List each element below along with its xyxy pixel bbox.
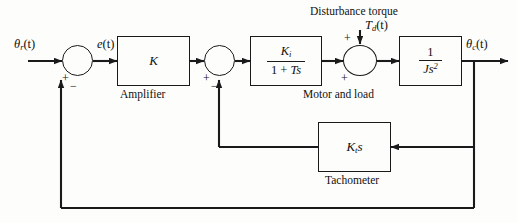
reference-input-label: θr(t) (14, 38, 35, 52)
load-transfer-function: 1 Js2 (419, 45, 442, 77)
load-numerator: 1 (419, 45, 442, 61)
motor-block: Ki 1 + Ts (250, 36, 322, 86)
load-block: 1 Js2 (399, 36, 462, 86)
tachometer-block: Kts (318, 122, 391, 172)
motor-numerator: Ki (267, 44, 305, 62)
tachometer-gain-label: Kts (346, 139, 362, 155)
motor-numerator-subscript: i (289, 50, 291, 60)
amplifier-block: K (117, 36, 190, 86)
sum1-plus-sign: + (62, 72, 69, 84)
signal-wires (0, 0, 517, 223)
sum1-minus-sign: − (70, 80, 77, 92)
disturbance-torque-caption: Disturbance torque (310, 6, 398, 18)
sum2-plus-sign: + (203, 72, 210, 84)
motor-denominator: 1 + Ts (267, 62, 305, 77)
sum3-plus-left-sign: + (341, 72, 348, 84)
motor-and-load-caption: Motor and load (303, 89, 374, 101)
summing-junction-3 (343, 45, 377, 76)
motor-transfer-function: Ki 1 + Ts (267, 44, 305, 78)
amplifier-gain-label: K (149, 53, 158, 69)
block-diagram: + − + − + + K Amplifier Ki 1 + Ts Motor … (0, 0, 517, 223)
sum3-plus-top-sign: + (344, 32, 351, 44)
error-signal-label: e(t) (97, 38, 114, 51)
amplifier-caption: Amplifier (120, 89, 165, 101)
sum2-minus-sign: − (211, 80, 218, 92)
output-signal-label: θc(t) (466, 38, 488, 52)
tachometer-caption: Tachometer (325, 175, 379, 187)
disturbance-torque-label: Td(t) (365, 19, 388, 33)
load-denominator-exponent: 2 (434, 61, 438, 71)
load-denominator: Js2 (419, 61, 442, 77)
